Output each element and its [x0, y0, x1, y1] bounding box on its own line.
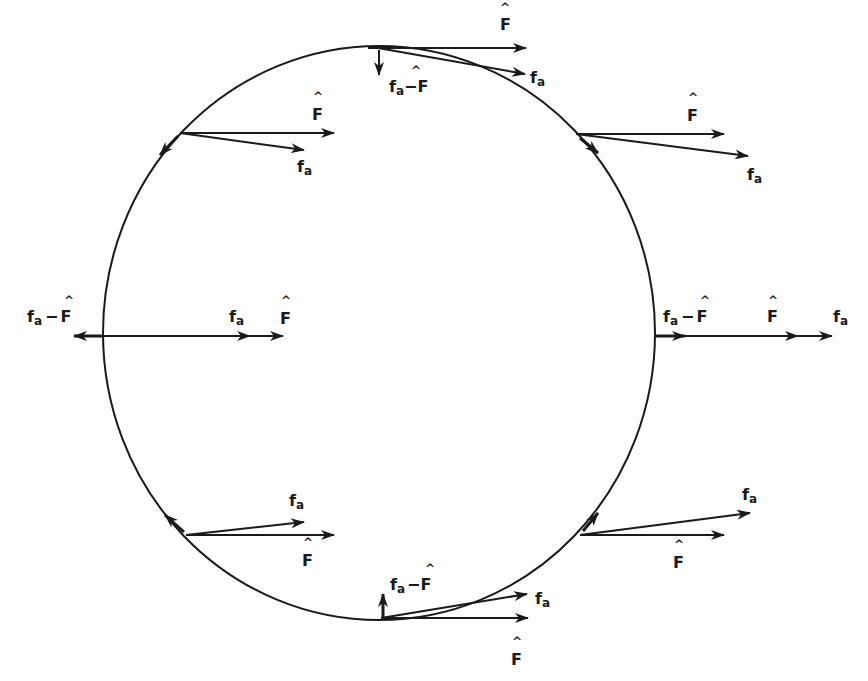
- label-diff: fa−F: [663, 307, 707, 328]
- label-fa: fa: [297, 157, 312, 178]
- svg-text:^: ^: [500, 1, 510, 15]
- diff-arrow: [160, 136, 178, 155]
- vectors-lower-left: fa ^ F: [165, 491, 334, 570]
- fa-arrow: [381, 594, 527, 618]
- fa-arrow: [580, 513, 750, 535]
- label-f-hat: F: [312, 105, 323, 124]
- svg-text:^: ^: [512, 635, 522, 649]
- diff-arrow: [583, 513, 598, 531]
- svg-text:^: ^: [411, 64, 421, 78]
- fa-arrow: [378, 48, 525, 74]
- label-fa: fa: [747, 165, 762, 186]
- vectors-top: ^ F fa fa−F ^: [368, 1, 545, 98]
- vectors-bottom: fa−F ^ fa ^ F: [381, 562, 550, 669]
- label-fa: fa: [742, 485, 757, 506]
- label-diff: fa−F: [389, 77, 428, 98]
- label-fa: fa: [535, 589, 550, 610]
- vectors-upper-left: ^ F fa: [160, 90, 334, 178]
- vectors-right: fa−F ^ F ^ fa: [655, 294, 848, 336]
- label-fa: fa: [833, 307, 848, 328]
- svg-text:^: ^: [700, 294, 710, 308]
- svg-text:^: ^: [674, 538, 684, 552]
- fa-arrow: [180, 133, 304, 150]
- label-fa: fa: [289, 491, 304, 512]
- label-diff: fa−F: [390, 575, 431, 596]
- svg-text:^: ^: [313, 90, 323, 104]
- label-f-hat: F: [767, 307, 778, 326]
- label-f-hat: F: [302, 551, 313, 570]
- diff-arrow: [580, 138, 598, 153]
- label-f-hat: F: [511, 650, 522, 669]
- svg-text:^: ^: [688, 91, 698, 105]
- vectors-left: fa−F ^ fa ^ F: [27, 294, 291, 336]
- diff-arrow: [165, 515, 184, 532]
- label-f-hat: F: [280, 309, 291, 328]
- vectors-lower-right: fa ^ F: [580, 485, 757, 572]
- svg-text:^: ^: [64, 294, 74, 308]
- label-diff: fa−F: [27, 307, 71, 328]
- vectors-upper-right: ^ F fa: [576, 91, 762, 186]
- fa-arrow: [186, 522, 304, 535]
- svg-text:^: ^: [281, 294, 291, 308]
- svg-text:^: ^: [768, 294, 778, 308]
- svg-text:^: ^: [303, 536, 313, 550]
- svg-text:^: ^: [425, 562, 435, 576]
- force-circle-diagram: ^ F fa fa−F ^ ^ F fa ^ F fa fa−F ^ fa ^ …: [0, 0, 868, 681]
- label-f-hat: F: [500, 15, 511, 34]
- label-fa: fa: [530, 68, 545, 89]
- fa-arrow: [576, 134, 748, 156]
- label-f-hat: F: [673, 553, 684, 572]
- label-f-hat: F: [687, 106, 698, 125]
- label-fa: fa: [229, 307, 244, 328]
